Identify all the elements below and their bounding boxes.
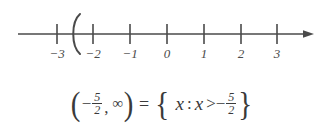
axis-right-arrowhead — [303, 30, 314, 38]
interval-fraction-five-halves: 5 2 — [92, 91, 102, 117]
interval-fraction-denominator: 2 — [92, 103, 102, 117]
interval-minus-sign: − — [82, 95, 92, 112]
interval-fraction-numerator: 5 — [92, 91, 102, 104]
set-colon: : — [187, 95, 192, 112]
set-fraction-five-halves: 5 2 — [226, 91, 236, 117]
tick-label-0: 0 — [164, 47, 171, 60]
set-close-brace: } — [239, 91, 253, 118]
interval-set-equation: ( − 5 2 , ∞ ) = { x : x > − 5 2 } — [70, 91, 253, 118]
set-variable-x-2: x — [195, 94, 203, 113]
set-variable-x: x — [176, 94, 184, 113]
interval-open-paren: ( — [71, 91, 81, 118]
set-minus-sign: − — [216, 95, 226, 112]
tick-label-neg1: −1 — [122, 47, 137, 60]
interval-close-paren: ) — [124, 91, 134, 118]
set-fraction-numerator: 5 — [226, 91, 236, 104]
interval-comma: , — [103, 99, 109, 116]
number-line-figure: −3 −2 −1 0 1 2 3 — [0, 0, 324, 70]
tick-label-2: 2 — [238, 47, 245, 60]
tick-label-3: 3 — [274, 47, 281, 60]
tick-label-1: 1 — [201, 47, 208, 60]
greater-than-sign: > — [206, 95, 216, 112]
equation-figure: ( − 5 2 , ∞ ) = { x : x > − 5 2 } — [0, 74, 324, 134]
equals-sign: = — [139, 95, 149, 113]
set-fraction-denominator: 2 — [226, 103, 236, 117]
infinity-symbol: ∞ — [113, 96, 123, 111]
tick-label-neg2: −2 — [85, 47, 100, 60]
tick-label-neg3: −3 — [49, 47, 64, 60]
set-open-brace: { — [155, 91, 169, 118]
